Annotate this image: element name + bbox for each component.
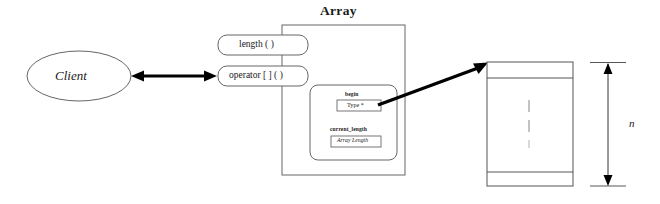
memory-block (487, 62, 573, 186)
diagram-vector-layer (0, 0, 660, 204)
client-array-association (131, 71, 217, 82)
dimension-measure-n (590, 63, 626, 187)
uml-array-diagram: Array Client length ( ) operator [ ] ( )… (0, 0, 660, 204)
current-length-type-label: Array Length (337, 138, 368, 144)
length-method-label: length ( ) (239, 40, 274, 50)
dimension-n-label: n (629, 118, 635, 129)
begin-pointer-arrow (378, 63, 488, 106)
client-label: Client (55, 69, 87, 82)
begin-type-label: Type * (347, 102, 364, 108)
current-length-member-label: current_length (330, 127, 367, 133)
diagram-title: Array (320, 4, 357, 18)
operator-index-method-label: operator [ ] ( ) (229, 71, 283, 81)
begin-member-label: begin (345, 92, 359, 98)
